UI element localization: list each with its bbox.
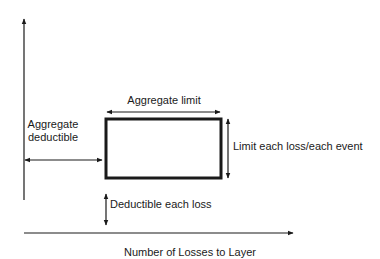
layer-box <box>106 119 221 178</box>
deductible-each-loss-label: Deductible each loss <box>110 198 212 211</box>
aggregate-deductible-label: Aggregate deductible <box>14 118 92 144</box>
aggregate-limit-label: Aggregate limit <box>108 94 220 107</box>
limit-each-loss-label: Limit each loss/each event <box>233 140 363 153</box>
aggregate-deductible-label-line1: Aggregate <box>14 118 92 131</box>
x-axis-label: Number of Losses to Layer <box>90 246 290 259</box>
aggregate-deductible-label-line2: deductible <box>14 131 92 144</box>
